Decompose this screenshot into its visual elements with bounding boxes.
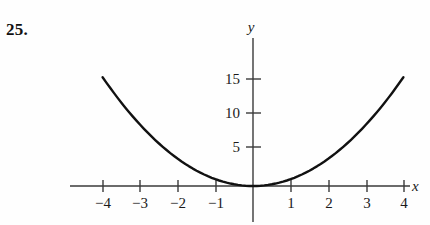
x-tick-label-neg3: −3: [132, 195, 148, 211]
y-tick-label-10: 10: [225, 105, 240, 121]
x-tick-label-2: 2: [325, 195, 333, 211]
x-tick-label-1: 1: [287, 195, 295, 211]
x-tick-label-neg1: −1: [208, 195, 224, 211]
figure-page: 25. −4 −3 −2 −1 1 2 3 4: [0, 0, 430, 225]
y-tick-label-15: 15: [225, 71, 240, 87]
x-tick-label-neg4: −4: [95, 195, 111, 211]
x-tick-label-4: 4: [400, 195, 408, 211]
parabola-graph: −4 −3 −2 −1 1 2 3 4 15 10 5 y x: [0, 0, 430, 225]
y-tick-label-5: 5: [233, 139, 241, 155]
x-tick-label-3: 3: [363, 195, 371, 211]
x-tick-label-neg2: −2: [170, 195, 186, 211]
x-axis-label: x: [411, 178, 419, 194]
y-axis-label: y: [246, 19, 255, 35]
